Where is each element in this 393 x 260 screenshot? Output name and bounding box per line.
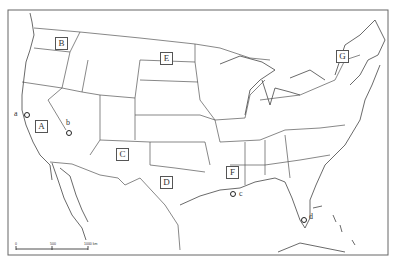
- point-label-d: d: [309, 212, 313, 221]
- scale-tick-1000: 1000 km: [84, 242, 97, 246]
- region-label-g: G: [336, 50, 349, 63]
- scale-bar: [16, 246, 88, 250]
- point-a-marker: [24, 112, 30, 118]
- region-label-c: C: [116, 148, 129, 161]
- region-label-e: E: [160, 52, 173, 65]
- point-b-marker: [66, 130, 72, 136]
- point-label-b: b: [66, 118, 70, 127]
- point-label-c: c: [239, 189, 243, 198]
- region-label-d: D: [160, 176, 173, 189]
- point-label-a: a: [14, 109, 18, 118]
- point-d-marker: [301, 217, 307, 223]
- region-label-f: F: [226, 166, 239, 179]
- point-c-marker: [230, 191, 236, 197]
- scale-tick-500: 500: [50, 242, 56, 246]
- scale-tick-0: 0: [15, 242, 17, 246]
- region-label-a: A: [35, 120, 48, 133]
- region-label-b: B: [55, 37, 68, 50]
